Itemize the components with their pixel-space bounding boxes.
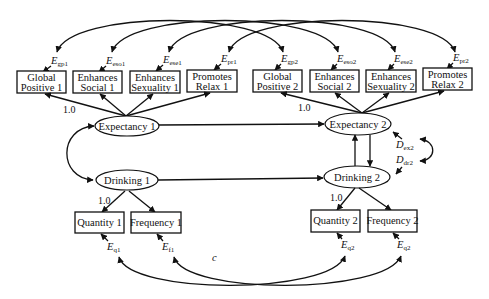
error-eeso1: Eeso1 xyxy=(105,55,126,68)
svg-text:Social 1: Social 1 xyxy=(80,82,114,93)
latent-drinking-2: Drinking 2 xyxy=(324,166,390,188)
latent-drinking-1: Drinking 1 xyxy=(96,170,158,190)
svg-text:Sexuality 2: Sexuality 2 xyxy=(367,81,415,92)
svg-text:Drinking 1: Drinking 1 xyxy=(104,175,150,186)
indicator-box-promotes-relax-2: Promotes Relax 2 xyxy=(423,68,472,90)
loading-label-exp2: 1.0 xyxy=(298,102,311,113)
loading-label-dr1: 1.0 xyxy=(98,195,111,206)
error-eeso2: Eeso2 xyxy=(336,53,357,66)
error-arrows-bottom xyxy=(101,233,399,241)
error-labels-time1: Egp1 Eeso1 Eese1 Epr1 xyxy=(50,53,237,68)
indicator-box-enhances-sexuality-1: Enhances Sexuality 1 xyxy=(130,71,180,93)
svg-text:Quantity 1: Quantity 1 xyxy=(77,217,122,228)
indicator-box-enhances-social-2: Enhances Social 2 xyxy=(310,70,359,92)
error-covariance-arcs-bottom xyxy=(119,256,401,285)
error-eq1: Eq1 xyxy=(106,241,121,254)
loadings-drinking-1: 1.0 xyxy=(98,191,155,212)
path-dr1-to-dr2 xyxy=(158,178,323,180)
error-eq2: Eq2 xyxy=(340,239,355,252)
stray-mark: c xyxy=(212,252,217,263)
covariance-exp1-dr1 xyxy=(67,126,94,180)
svg-text:Sexuality 1: Sexuality 1 xyxy=(131,82,179,93)
svg-text:Expectancy 1: Expectancy 1 xyxy=(99,121,156,132)
svg-text:Ddr2: Ddr2 xyxy=(395,154,413,167)
loading-label-dr2: 1.0 xyxy=(330,192,343,203)
error-egp2: Egp2 xyxy=(280,53,298,66)
error-egp1: Egp1 xyxy=(50,55,68,68)
latent-expectancy-2: Expectancy 2 xyxy=(325,113,391,135)
indicator-box-enhances-sexuality-2: Enhances Sexuality 2 xyxy=(366,70,416,92)
loadings-expectancy-2: 1.0 xyxy=(281,91,444,113)
error-eese1: Eese1 xyxy=(162,54,182,67)
svg-text:Expectancy 2: Expectancy 2 xyxy=(330,119,387,130)
svg-text:Positive 2: Positive 2 xyxy=(257,81,299,92)
covariance-dex2-ddr2 xyxy=(420,139,433,161)
svg-text:Frequency 1: Frequency 1 xyxy=(130,217,182,228)
indicator-box-frequency-2: Frequency 2 xyxy=(366,210,418,232)
svg-text:Relax 1: Relax 1 xyxy=(196,81,228,92)
indicator-box-promotes-relax-1: Promotes Relax 1 xyxy=(187,70,237,92)
svg-text:Dex2: Dex2 xyxy=(395,139,414,152)
error-covariance-arcs-top xyxy=(57,21,455,53)
svg-text:Positive 1: Positive 1 xyxy=(21,82,63,93)
path-exp1-to-exp2 xyxy=(159,124,324,125)
error-ef1: Ef1 xyxy=(161,241,175,254)
loading-label-exp1: 1.0 xyxy=(63,104,76,115)
indicator-box-enhances-social-1: Enhances Social 1 xyxy=(73,71,122,93)
error-epr1: Epr1 xyxy=(220,53,237,66)
loadings-drinking-2: 1.0 xyxy=(330,188,391,210)
error-ef2: Eq2 xyxy=(396,239,411,252)
indicator-box-quantity-2: Quantity 2 xyxy=(311,210,360,232)
latent-expectancy-1: Expectancy 1 xyxy=(95,116,159,136)
indicator-box-quantity-1: Quantity 1 xyxy=(75,212,124,233)
loadings-expectancy-1: 1.0 xyxy=(45,93,210,116)
svg-text:Quantity 2: Quantity 2 xyxy=(313,215,358,226)
indicator-box-frequency-1: Frequency 1 xyxy=(130,212,182,233)
error-eese2: Eese2 xyxy=(393,53,413,66)
error-epr2: Epr2 xyxy=(452,52,469,65)
path-diagram: Egp1 Eeso1 Eese1 Epr1 Egp2 Eeso2 Eese2 E… xyxy=(0,0,489,299)
svg-text:Frequency 2: Frequency 2 xyxy=(366,215,418,226)
error-labels-time2: Egp2 Eeso2 Eese2 Epr2 xyxy=(280,52,469,66)
disturbance-dex2: Dex2 xyxy=(393,132,414,152)
svg-text:Relax 2: Relax 2 xyxy=(431,79,463,90)
svg-text:Drinking 2: Drinking 2 xyxy=(334,172,380,183)
svg-text:Social 2: Social 2 xyxy=(317,81,351,92)
indicator-box-global-positive-2: Global Positive 2 xyxy=(253,70,302,92)
disturbance-ddr2: Ddr2 xyxy=(395,154,413,174)
error-labels-bottom: Eq1 Ef1 Eq2 Eq2 xyxy=(106,239,411,254)
indicator-box-global-positive-1: Global Positive 1 xyxy=(17,71,66,93)
